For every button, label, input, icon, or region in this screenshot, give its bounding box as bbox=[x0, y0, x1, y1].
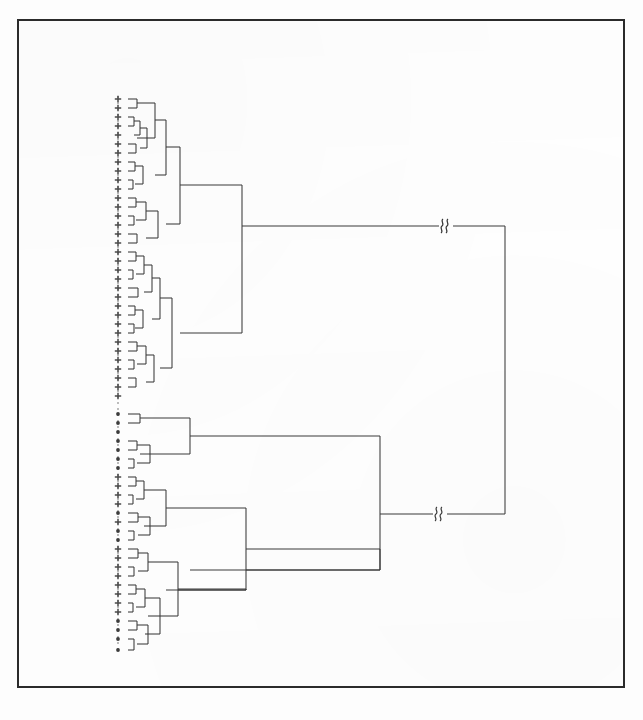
dendrogram-link bbox=[128, 549, 138, 558]
dendrogram-link bbox=[128, 513, 138, 522]
axis-break-icon bbox=[439, 219, 453, 233]
dendrogram-link bbox=[134, 121, 140, 135]
dot-marker bbox=[116, 648, 120, 652]
dendrogram-link bbox=[128, 477, 136, 486]
plus-marker bbox=[115, 600, 121, 606]
dendrogram-link bbox=[190, 436, 380, 570]
plus-marker bbox=[115, 384, 121, 390]
dendrogram-links bbox=[128, 99, 380, 650]
plus-marker bbox=[115, 123, 121, 129]
dot-marker bbox=[116, 457, 120, 461]
dendrogram-link bbox=[138, 553, 148, 571]
dot-marker bbox=[116, 430, 120, 434]
dot-marker bbox=[116, 628, 120, 632]
dendrogram-link bbox=[136, 202, 146, 220]
plus-marker bbox=[115, 177, 121, 183]
plus-marker bbox=[115, 141, 121, 147]
dendrogram-link bbox=[128, 306, 135, 315]
dendrogram-link bbox=[160, 298, 172, 368]
dot-marker bbox=[116, 529, 120, 533]
plus-marker bbox=[115, 294, 121, 300]
dot-marker bbox=[116, 538, 120, 542]
dendrogram-link bbox=[128, 270, 133, 279]
plus-marker bbox=[115, 204, 121, 210]
plus-marker bbox=[115, 330, 121, 336]
plus-marker bbox=[115, 555, 121, 561]
dendrogram-link bbox=[135, 310, 143, 328]
dendrogram-link bbox=[128, 495, 133, 504]
dendrogram-link bbox=[152, 278, 160, 319]
plus-marker bbox=[115, 285, 121, 291]
dot-marker bbox=[116, 637, 120, 641]
plus-marker bbox=[115, 312, 121, 318]
dendrogram-link bbox=[136, 589, 145, 607]
dendrogram-link bbox=[128, 144, 136, 153]
plus-marker bbox=[115, 564, 121, 570]
dot-marker bbox=[116, 421, 120, 425]
dendrogram-link bbox=[128, 216, 134, 225]
plus-marker bbox=[115, 483, 121, 489]
plus-marker bbox=[115, 582, 121, 588]
dendrogram-link bbox=[166, 147, 180, 224]
dendrogram-link bbox=[136, 481, 144, 499]
plus-marker bbox=[115, 393, 121, 399]
dot-marker bbox=[116, 448, 120, 452]
dendrogram-link bbox=[128, 198, 136, 207]
dendrogram-link bbox=[128, 117, 134, 126]
dendrogram-link bbox=[128, 324, 134, 333]
dendrogram-root-links bbox=[242, 226, 505, 514]
plus-marker bbox=[115, 96, 121, 102]
plus-marker bbox=[115, 519, 121, 525]
dendrogram-link bbox=[128, 585, 136, 594]
plus-marker bbox=[115, 168, 121, 174]
plus-marker bbox=[115, 132, 121, 138]
plus-marker bbox=[115, 366, 121, 372]
dendrogram-link bbox=[136, 256, 144, 274]
dendrogram-link bbox=[128, 288, 138, 297]
plus-marker bbox=[115, 213, 121, 219]
dendrogram-link bbox=[148, 562, 178, 616]
plus-marker bbox=[115, 186, 121, 192]
plus-marker bbox=[115, 159, 121, 165]
dendrogram-link bbox=[128, 252, 136, 261]
plus-marker bbox=[115, 546, 121, 552]
dendrogram-link bbox=[180, 185, 242, 333]
dendrogram-link bbox=[146, 211, 158, 238]
plus-marker bbox=[115, 492, 121, 498]
dendrogram-plot bbox=[0, 0, 643, 720]
plus-marker bbox=[115, 609, 121, 615]
dendrogram-link bbox=[128, 180, 133, 189]
dendrogram-link bbox=[128, 567, 134, 576]
plus-marker bbox=[115, 222, 121, 228]
plus-marker bbox=[115, 573, 121, 579]
dendrogram-link bbox=[246, 549, 380, 570]
dot-marker bbox=[116, 511, 120, 515]
plus-marker bbox=[115, 501, 121, 507]
plus-marker bbox=[115, 105, 121, 111]
plus-marker bbox=[115, 357, 121, 363]
dendrogram-link bbox=[128, 378, 136, 387]
dendrogram-link bbox=[128, 621, 137, 630]
plus-marker bbox=[115, 591, 121, 597]
dendrogram-link bbox=[137, 346, 146, 364]
plus-marker bbox=[115, 474, 121, 480]
plus-marker bbox=[115, 258, 121, 264]
dendrogram-link bbox=[128, 639, 134, 650]
plus-marker bbox=[115, 348, 121, 354]
plus-marker bbox=[115, 339, 121, 345]
axis-break-icon bbox=[433, 507, 447, 521]
plus-marker bbox=[115, 150, 121, 156]
plus-marker bbox=[115, 231, 121, 237]
plus-marker bbox=[115, 240, 121, 246]
dendrogram-link bbox=[128, 414, 140, 423]
dendrogram-link bbox=[128, 99, 137, 108]
dendrogram-link bbox=[128, 603, 133, 612]
dendrogram-link bbox=[128, 234, 137, 243]
plus-marker bbox=[115, 375, 121, 381]
dot-marker bbox=[116, 412, 120, 416]
figure-root bbox=[0, 0, 643, 720]
dot-marker bbox=[116, 439, 120, 443]
axis-break-symbols bbox=[433, 219, 453, 521]
plus-marker bbox=[115, 114, 121, 120]
dot-marker bbox=[116, 466, 120, 470]
